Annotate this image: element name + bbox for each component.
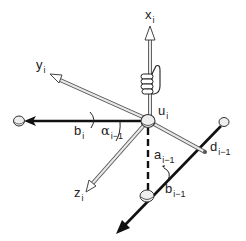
b-i-label: bi xyxy=(74,124,84,137)
joint-ball-icon xyxy=(140,190,154,202)
b-prev-label: bi−1 xyxy=(165,182,186,195)
z-axis-label: zi xyxy=(74,186,84,199)
y-axis-arrow xyxy=(50,74,145,118)
alpha-label: αi−1 xyxy=(101,124,123,137)
joint-u-label: ui xyxy=(158,104,168,117)
y-axis-label: yi xyxy=(36,58,46,71)
diagram-canvas xyxy=(0,0,246,241)
joint-ball-icon xyxy=(219,118,229,127)
a-offset-label: ai−1 xyxy=(154,148,175,161)
x-axis-label: xi xyxy=(145,8,155,21)
d-offset-label: di−1 xyxy=(210,140,231,153)
joint-ball-icon xyxy=(14,116,25,126)
joint-ball-icon xyxy=(141,115,155,128)
rotation-arc-icon xyxy=(164,168,169,180)
joint-frame-diagram: xi yi zi ui bi αi−1 ai−1 di−1 bi−1 xyxy=(0,0,246,241)
